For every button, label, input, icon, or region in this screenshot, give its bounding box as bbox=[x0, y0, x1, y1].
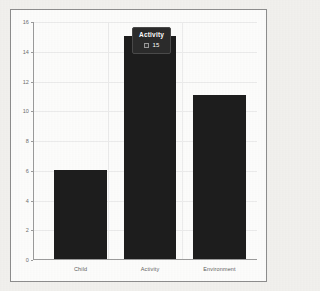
y-tick-label-0: 0 bbox=[26, 257, 29, 263]
y-tick-label-8: 8 bbox=[26, 138, 29, 144]
x-axis-line bbox=[33, 259, 257, 260]
y-tick-label-4: 4 bbox=[26, 198, 29, 204]
y-tick-mark-8 bbox=[31, 141, 33, 142]
chart-figure: 16 14 12 10 8 6 4 2 0 Child Activity Env… bbox=[10, 9, 267, 282]
vgridline-1 bbox=[108, 22, 109, 260]
series-color-swatch-icon bbox=[144, 43, 149, 48]
gridline-16 bbox=[33, 22, 257, 23]
y-tick-mark-12 bbox=[31, 82, 33, 83]
y-tick-label-6: 6 bbox=[26, 168, 29, 174]
bar-environment[interactable] bbox=[193, 95, 246, 259]
tooltip-series-row: 15 bbox=[139, 41, 164, 49]
y-tick-label-10: 10 bbox=[23, 108, 29, 114]
y-tick-mark-2 bbox=[31, 230, 33, 231]
y-tick-mark-16 bbox=[31, 22, 33, 23]
chart-tooltip: Activity 15 bbox=[132, 27, 171, 54]
y-tick-mark-10 bbox=[31, 111, 33, 112]
x-tick-label-environment: Environment bbox=[203, 266, 236, 272]
y-axis-line bbox=[33, 22, 34, 260]
y-tick-mark-4 bbox=[31, 201, 33, 202]
x-tick-label-activity: Activity bbox=[141, 266, 160, 272]
vgridline-2 bbox=[182, 22, 183, 260]
y-tick-label-2: 2 bbox=[26, 227, 29, 233]
y-tick-label-12: 12 bbox=[23, 79, 29, 85]
tooltip-value: 15 bbox=[153, 41, 160, 49]
y-tick-mark-0 bbox=[31, 260, 33, 261]
bar-activity[interactable] bbox=[124, 36, 177, 259]
bar-child[interactable] bbox=[54, 170, 107, 259]
tooltip-title: Activity bbox=[139, 31, 164, 39]
x-tick-label-child: Child bbox=[74, 266, 87, 272]
y-tick-mark-14 bbox=[31, 52, 33, 53]
plot-area: 16 14 12 10 8 6 4 2 0 Child Activity Env… bbox=[33, 22, 257, 260]
y-tick-label-14: 14 bbox=[23, 49, 29, 55]
y-tick-label-16: 16 bbox=[23, 19, 29, 25]
y-tick-mark-6 bbox=[31, 171, 33, 172]
